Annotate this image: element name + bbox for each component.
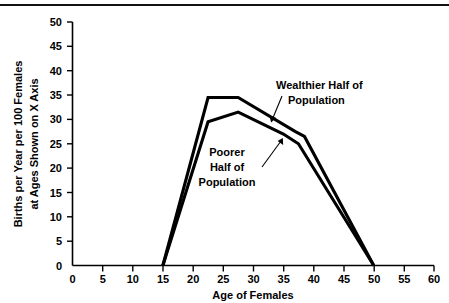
y-tick-label: 45 bbox=[50, 40, 62, 52]
x-axis-tick-labels: 0 5 10 15 20 25 30 35 40 45 50 55 60 bbox=[69, 273, 440, 285]
wealthier-annotation: Wealthier Half of Population bbox=[269, 79, 363, 123]
x-tick-label: 50 bbox=[368, 273, 380, 285]
y-tick-label: 50 bbox=[50, 16, 62, 28]
y-tick-label: 40 bbox=[50, 65, 62, 77]
y-axis-title-line1: Births per Year per 100 Females bbox=[12, 61, 24, 228]
x-tick-label: 0 bbox=[69, 273, 75, 285]
y-axis-title-line2: at Ages Shown on X Axis bbox=[28, 78, 40, 209]
y-tick-label: 20 bbox=[50, 162, 62, 174]
y-tick-label: 15 bbox=[50, 187, 62, 199]
poorer-annotation-line2: Half of bbox=[210, 161, 245, 173]
x-tick-label: 60 bbox=[428, 273, 440, 285]
wealthier-annotation-line1: Wealthier Half of bbox=[276, 79, 363, 91]
fertility-rate-line-chart: 50 45 40 35 30 25 20 15 10 5 0 bbox=[0, 0, 449, 303]
x-axis-ticks bbox=[103, 266, 434, 272]
y-axis-ticks bbox=[67, 22, 73, 241]
poorer-annotation-line1: Poorer bbox=[209, 146, 245, 158]
x-tick-label: 40 bbox=[308, 273, 320, 285]
y-tick-label: 10 bbox=[50, 211, 62, 223]
x-tick-label: 5 bbox=[100, 273, 106, 285]
series-line-wealthier-half bbox=[163, 97, 374, 265]
y-tick-label: 0 bbox=[56, 260, 62, 272]
poorer-annotation: Poorer Half of Population bbox=[199, 138, 284, 188]
y-tick-label: 25 bbox=[50, 138, 62, 150]
series-line-poorer-half bbox=[163, 112, 374, 265]
x-tick-label: 25 bbox=[217, 273, 229, 285]
y-tick-label: 35 bbox=[50, 89, 62, 101]
chart-page: 50 45 40 35 30 25 20 15 10 5 0 bbox=[0, 0, 449, 303]
x-tick-label: 45 bbox=[338, 273, 350, 285]
y-axis-title: Births per Year per 100 Females at Ages … bbox=[12, 61, 40, 228]
x-tick-label: 15 bbox=[157, 273, 169, 285]
y-axis-tick-labels: 50 45 40 35 30 25 20 15 10 5 0 bbox=[50, 16, 62, 272]
poorer-leader-line bbox=[262, 141, 281, 167]
x-axis-title: Age of Females bbox=[212, 289, 293, 301]
y-tick-label: 5 bbox=[56, 235, 62, 247]
wealthier-leader-line bbox=[273, 96, 283, 119]
x-tick-label: 30 bbox=[247, 273, 259, 285]
y-tick-label: 30 bbox=[50, 113, 62, 125]
x-tick-label: 20 bbox=[187, 273, 199, 285]
poorer-annotation-line3: Population bbox=[199, 176, 256, 188]
x-tick-label: 55 bbox=[398, 273, 410, 285]
x-tick-label: 35 bbox=[278, 273, 290, 285]
x-tick-label: 10 bbox=[127, 273, 139, 285]
wealthier-annotation-line2: Population bbox=[288, 94, 345, 106]
